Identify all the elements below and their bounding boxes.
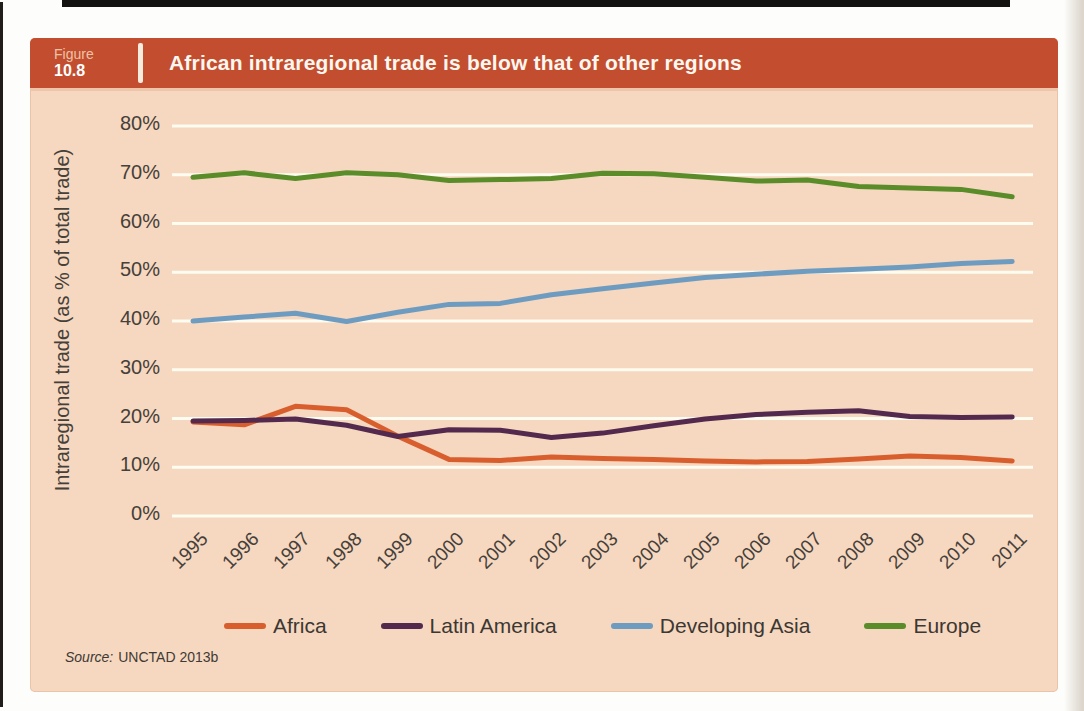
figure-header: Figure 10.8 African intraregional trade … bbox=[30, 38, 1058, 91]
legend-label-africa: Africa bbox=[273, 614, 327, 638]
line-chart-plot bbox=[30, 91, 1058, 692]
series-line-developing-asia bbox=[193, 262, 1012, 322]
legend-swatch-latin-america bbox=[381, 623, 423, 629]
figure-label: Figure 10.8 bbox=[30, 47, 138, 80]
scan-edge-right bbox=[1064, 0, 1084, 711]
source-prefix: Source: bbox=[65, 649, 113, 665]
source-text: UNCTAD 2013b bbox=[118, 649, 218, 665]
legend-label-europe: Europe bbox=[913, 614, 981, 638]
legend-item-africa: Africa bbox=[224, 614, 327, 638]
series-line-latin-america bbox=[193, 411, 1012, 438]
scan-edge-left bbox=[0, 2, 3, 707]
legend-item-europe: Europe bbox=[864, 614, 981, 638]
legend-item-developing-asia: Developing Asia bbox=[611, 614, 811, 638]
legend-swatch-europe bbox=[864, 623, 906, 629]
scanned-page: Figure 10.8 African intraregional trade … bbox=[0, 0, 1084, 711]
legend-item-latin-america: Latin America bbox=[381, 614, 557, 638]
figure-title: African intraregional trade is below tha… bbox=[169, 51, 742, 75]
series-line-europe bbox=[193, 173, 1012, 197]
legend-swatch-africa bbox=[224, 623, 266, 629]
legend-label-latin-america: Latin America bbox=[430, 614, 557, 638]
legend-swatch-developing-asia bbox=[611, 623, 653, 629]
chart-area: Intraregional trade (as % of total trade… bbox=[30, 91, 1058, 692]
figure-number: 10.8 bbox=[54, 62, 138, 80]
figure-word: Figure bbox=[54, 47, 138, 62]
scan-edge-top bbox=[62, 0, 1010, 7]
chart-legend: AfricaLatin AmericaDeveloping AsiaEurope bbox=[172, 614, 1033, 638]
header-divider bbox=[138, 43, 143, 83]
source-note: Source:UNCTAD 2013b bbox=[65, 649, 218, 665]
legend-label-developing-asia: Developing Asia bbox=[660, 614, 811, 638]
figure-panel: Figure 10.8 African intraregional trade … bbox=[30, 38, 1058, 692]
